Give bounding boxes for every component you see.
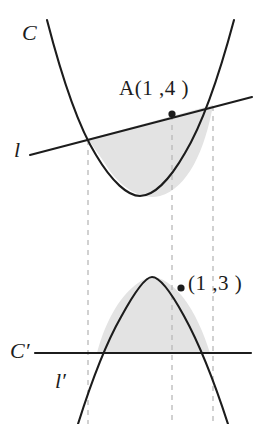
curve-upper-label: C	[22, 22, 37, 44]
line-lower-label: l′	[55, 370, 66, 392]
curve-lower-label: C′	[10, 340, 30, 362]
point-b-marker	[177, 284, 184, 291]
point-a-label: A(1 ,4 )	[119, 78, 189, 99]
point-a-marker	[168, 110, 175, 117]
geometry-figure: C l A(1 ,4 ) (1 ,3 ) C′ l′	[0, 0, 272, 424]
upper-shaded-region	[88, 105, 213, 197]
point-b-label: (1 ,3 )	[188, 273, 242, 294]
line-upper-label: l	[14, 139, 20, 161]
figure-canvas	[0, 0, 272, 424]
